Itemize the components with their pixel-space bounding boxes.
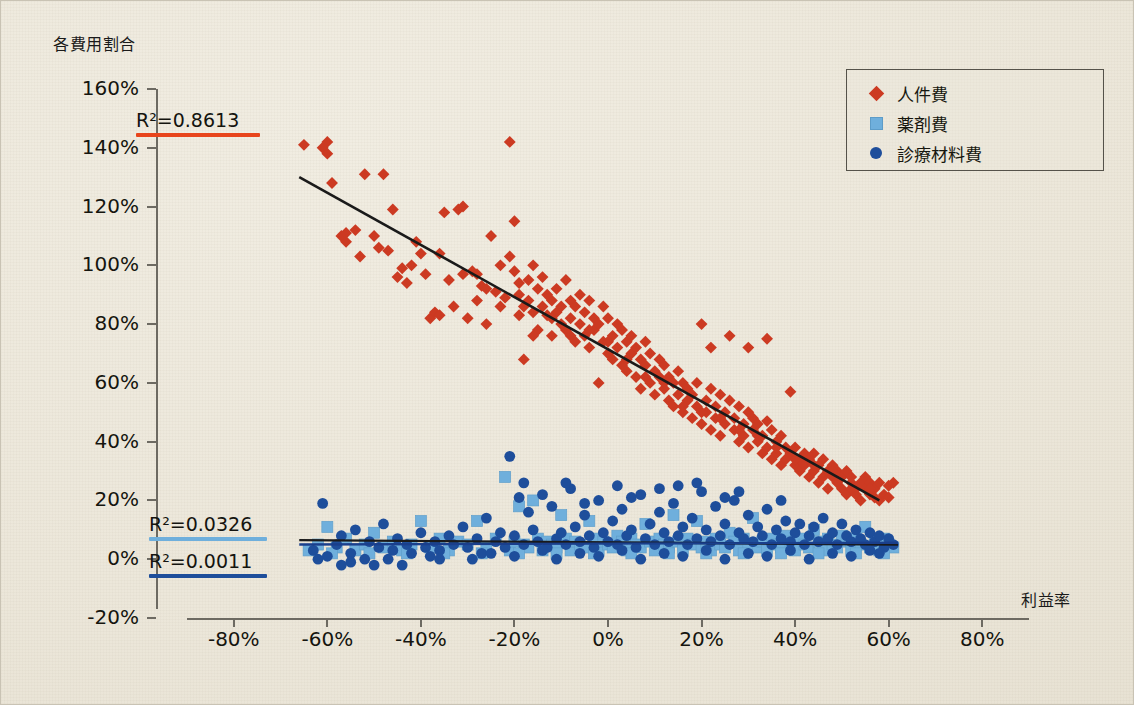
r2-annotation-jinkenhi: R²=0.8613 [136, 109, 260, 137]
trend-line [299, 177, 879, 500]
r2-yakuzaihi-rule [149, 537, 267, 541]
r2-jinkenhi-rule [136, 133, 260, 137]
r2-zairyohi-rule [149, 574, 267, 578]
r2-zairyohi-text: R²=0.0011 [149, 550, 267, 574]
circle-marker-icon [865, 147, 887, 159]
r2-annotation-zairyohi: R²=0.0011 [149, 550, 267, 578]
legend-label-zairyohi: 診療材料費 [897, 141, 982, 166]
scatter-chart: 各費用割合 利益率 160%140%120%100%80%60%40%20%0%… [0, 0, 1134, 705]
diamond-marker-icon [865, 88, 887, 99]
legend-label-jinkenhi: 人件費 [897, 81, 948, 106]
legend-item-jinkenhi: 人件費 [865, 78, 1103, 108]
square-marker-icon [865, 117, 887, 130]
legend-item-zairyohi: 診療材料費 [865, 138, 1103, 168]
r2-jinkenhi-text: R²=0.8613 [136, 109, 260, 133]
legend-item-yakuzaihi: 薬剤費 [865, 108, 1103, 138]
legend-label-yakuzaihi: 薬剤費 [897, 111, 948, 136]
r2-annotation-yakuzaihi: R²=0.0326 [149, 513, 267, 541]
series-diamond [298, 136, 899, 506]
legend: 人件費 薬剤費 診療材料費 [846, 69, 1104, 171]
r2-yakuzaihi-text: R²=0.0326 [149, 513, 267, 537]
